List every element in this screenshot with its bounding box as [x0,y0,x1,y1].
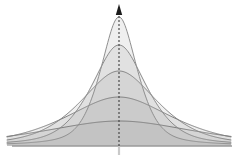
figure-root [0,0,244,158]
bell-curves-chart [0,0,244,158]
